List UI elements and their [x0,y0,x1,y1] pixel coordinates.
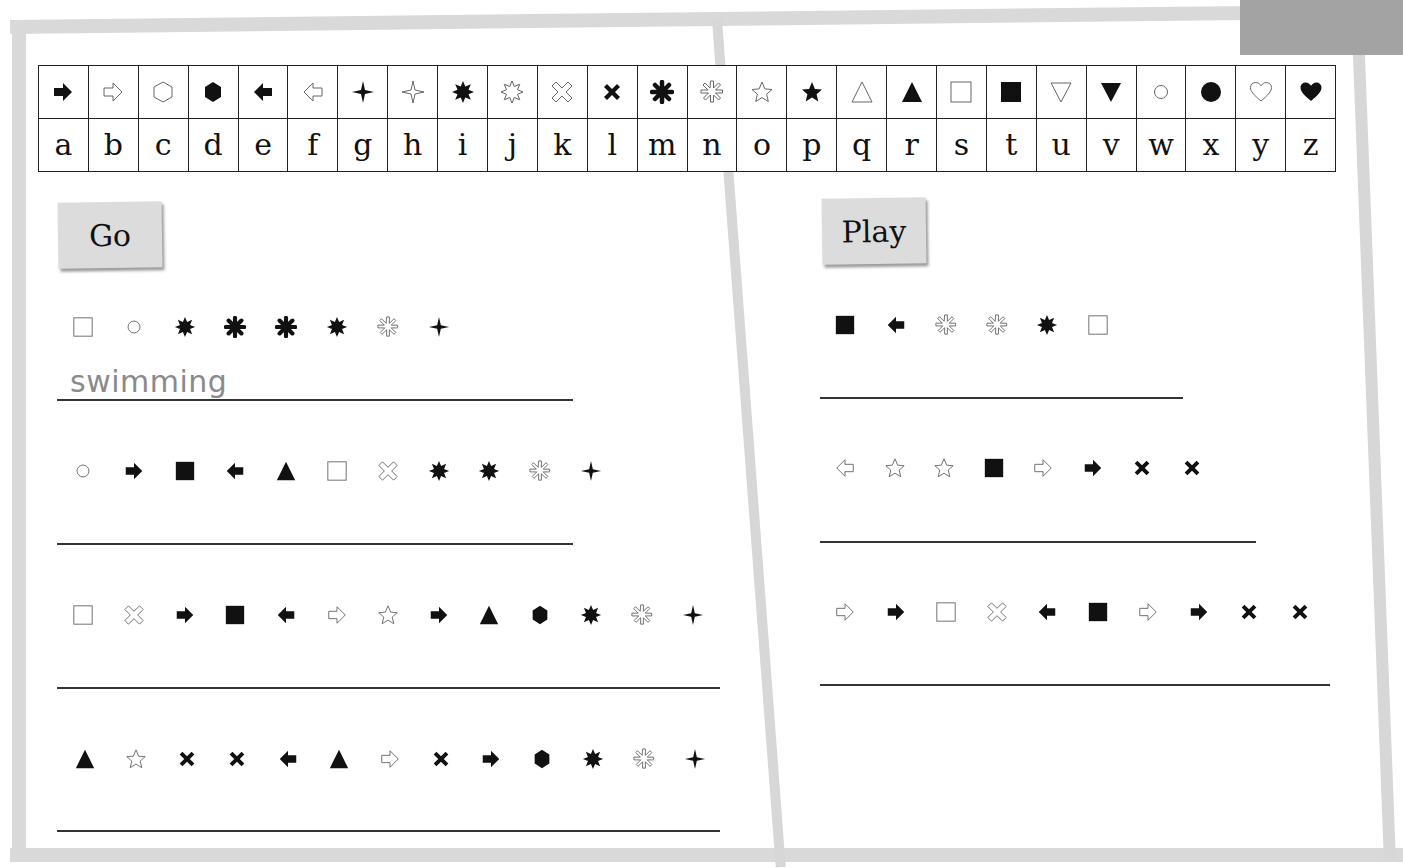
puzzle-symbol [425,313,453,341]
cipher-letter-cell: m [637,119,687,172]
arrow-right-filled-icon [480,748,502,770]
cipher-letter-cell: j [488,119,538,172]
puzzle-symbol [577,601,605,629]
cipher-letter-cell: r [887,119,937,172]
left-puzzle-4-answer-line[interactable] [57,830,720,832]
puzzle-symbol [681,745,709,773]
left-puzzle-1-answer-line[interactable] [57,399,573,401]
arrow-left-filled-icon [251,80,275,104]
burst-filled-icon [174,316,196,338]
cross-filled-icon [1238,601,1260,623]
worksheet-frame-top [10,4,1390,34]
puzzle-symbol [1029,454,1057,482]
circle-outline-icon [1149,80,1173,104]
cipher-letter-cell: g [338,119,388,172]
puzzle-symbol [221,457,249,485]
puzzle-symbol [323,457,351,485]
arrow-right-filled-icon [428,604,450,626]
puzzle-symbol [882,311,910,339]
cipher-letter-cell: q [837,119,887,172]
triangle-filled-icon [478,604,500,626]
arrow-left-outline-icon [834,457,856,479]
cipher-symbol-cell [1036,66,1086,119]
cipher-symbol-cell [1236,66,1286,119]
puzzle-symbol [1128,454,1156,482]
cipher-symbol-cell [39,66,89,119]
puzzle-symbol [1185,598,1213,626]
star-filled-icon [800,80,824,104]
cipher-symbol-cell [1286,66,1336,119]
puzzle-symbol [932,311,960,339]
right-puzzle-1-answer-line[interactable] [820,397,1183,399]
puzzle-symbol [374,313,402,341]
puzzle-symbol [882,598,910,626]
cipher-letter-cell: f [288,119,338,172]
arrow-right-outline-icon [834,601,856,623]
cipher-symbol-cell [1186,66,1236,119]
puzzle-symbol [528,745,556,773]
right-puzzle-3-answer-line[interactable] [820,684,1330,686]
square-filled-icon [983,457,1005,479]
cipher-symbol-cell [1086,66,1136,119]
cipher-letter-cell: c [138,119,188,172]
puzzle-symbol [323,313,351,341]
cipher-symbol-cell [787,66,837,119]
puzzle-symbol [374,457,402,485]
puzzle-symbol [983,311,1011,339]
puzzle-symbol [526,457,554,485]
left-puzzle-2-answer-line[interactable] [57,543,573,545]
arrow-right-filled-icon [1188,601,1210,623]
cross-outline-icon [377,460,399,482]
cipher-symbol-cell [887,66,937,119]
cipher-letter-cell: a [39,119,89,172]
puzzle-symbol [1235,598,1263,626]
cipher-symbol-cell [737,66,787,119]
hexagon-outline-icon [151,80,175,104]
cipher-symbol-cell [488,66,538,119]
puzzle-symbol [221,601,249,629]
puzzle-symbol [1033,598,1061,626]
puzzle-symbol [628,601,656,629]
puzzle-symbol [1134,598,1162,626]
cipher-key-table: abcdefghijklmnopqrstuvwxyz [38,65,1336,172]
puzzle-symbol [427,745,455,773]
star-outline-icon [933,457,955,479]
puzzle-symbol [983,598,1011,626]
sparkle-filled-icon [428,316,450,338]
square-outline-icon [935,601,957,623]
arrow-right-filled-icon [885,601,907,623]
hexagon-filled-icon [531,748,553,770]
cipher-symbol-cell [837,66,887,119]
puzzle-symbol [120,313,148,341]
right-puzzle-2-answer-line[interactable] [820,541,1256,543]
cross-filled-icon [226,748,248,770]
left-puzzle-3-answer-line[interactable] [57,687,720,689]
square-filled-icon [834,314,856,336]
puzzle-symbol [1178,454,1206,482]
cipher-symbol-cell [687,66,737,119]
cross-filled-icon [1131,457,1153,479]
puzzle-symbol [272,457,300,485]
square-outline-icon [72,604,94,626]
cipher-letter-cell: l [587,119,637,172]
cipher-letter-cell: t [986,119,1036,172]
puzzle-symbol [526,601,554,629]
burst-filled-icon [478,460,500,482]
puzzle-symbol [120,457,148,485]
puzzle-symbol [376,745,404,773]
cipher-letter-cell: k [537,119,587,172]
square-filled-icon [224,604,246,626]
square-outline-icon [326,460,348,482]
cross-filled-icon [600,80,624,104]
burst-filled-icon [326,316,348,338]
triangle-down-filled-icon [1099,80,1123,104]
cipher-letter-cell: o [737,119,787,172]
cipher-letter-cell: e [238,119,288,172]
answer-text-left-1: swimming [70,364,227,399]
cross-filled-icon [176,748,198,770]
hexagon-filled-icon [201,80,225,104]
puzzle-symbol [120,601,148,629]
asterisk-outline-icon [529,460,551,482]
puzzle-symbol [272,313,300,341]
sparkle-filled-icon [684,748,706,770]
